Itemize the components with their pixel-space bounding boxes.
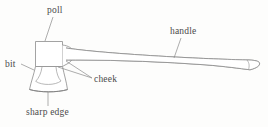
label-handle: handle — [170, 26, 197, 37]
leader-line-handle — [174, 38, 181, 58]
poll-block-shape — [36, 42, 63, 67]
axe-diagram: poll bit cheek sharp edge handle — [0, 0, 268, 127]
axe-handle-group — [66, 48, 260, 70]
leader-line-bit — [21, 64, 34, 70]
label-sharp-edge: sharp edge — [26, 107, 69, 118]
bit-blade-shape — [30, 67, 68, 92]
label-cheek: cheek — [94, 74, 117, 85]
label-bit: bit — [5, 59, 16, 70]
leader-line-cheek-secondary — [66, 61, 92, 78]
label-poll: poll — [47, 5, 63, 16]
leader-line-poll — [45, 17, 53, 41]
